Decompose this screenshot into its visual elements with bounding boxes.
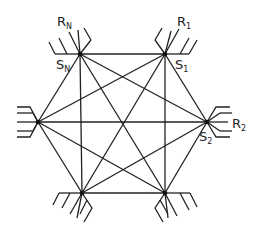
- edge-sn-sbl: [80, 54, 82, 193]
- rake-sbr: [155, 193, 197, 222]
- label-sn: SN: [56, 57, 70, 74]
- node-sl: [36, 120, 41, 125]
- node-labels: RN SN R1 S1 R2 S2: [56, 14, 246, 146]
- rake-sl: [17, 107, 38, 137]
- label-s2: S2: [199, 129, 212, 146]
- label-s1: S1: [175, 57, 188, 74]
- graph-edges: [38, 54, 207, 193]
- label-rn: RN: [57, 14, 72, 31]
- label-r2: R2: [232, 116, 246, 133]
- node-sn: [78, 52, 83, 57]
- network-diagram: RN SN R1 S1 R2 S2: [0, 0, 259, 238]
- edge-sbl-sl: [38, 122, 82, 193]
- rake-sbl: [53, 193, 92, 222]
- node-sbr: [163, 191, 168, 196]
- rake-sn: [49, 28, 91, 54]
- node-s2: [205, 120, 210, 125]
- node-sbl: [80, 191, 85, 196]
- node-s1: [163, 52, 168, 57]
- label-r1: R1: [177, 14, 191, 31]
- rake-s2: [207, 107, 232, 137]
- rake-s1: [155, 28, 197, 54]
